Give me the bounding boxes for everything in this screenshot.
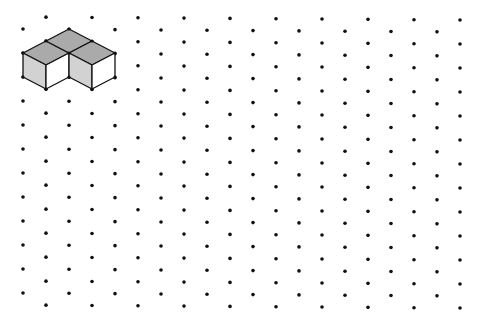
grid-dot [274, 233, 278, 237]
grid-dot [205, 76, 209, 80]
grid-dot [366, 42, 370, 46]
grid-dot [366, 186, 370, 190]
grid-dot [274, 137, 278, 141]
grid-dot [389, 246, 393, 250]
grid-dot [205, 52, 209, 56]
grid-dot [90, 208, 94, 212]
grid-dot [412, 18, 416, 22]
vertex-dot [44, 39, 47, 42]
grid-dot [389, 54, 393, 58]
grid-dot [251, 269, 255, 273]
grid-dot [412, 42, 416, 46]
grid-dot [90, 112, 94, 116]
grid-dot [228, 17, 232, 21]
grid-dot [159, 100, 163, 104]
grid-dot [251, 101, 255, 105]
grid-dot [113, 124, 117, 128]
grid-dot [228, 281, 232, 285]
grid-dot [21, 99, 25, 103]
isometric-dot-paper [0, 0, 491, 320]
grid-dot [159, 148, 163, 152]
grid-dot [159, 244, 163, 248]
grid-dot [136, 88, 140, 92]
grid-dot [435, 150, 439, 154]
grid-dot [343, 269, 347, 273]
grid-dot [182, 16, 186, 20]
grid-dot [67, 172, 71, 176]
grid-dot [389, 270, 393, 274]
grid-dot [113, 28, 117, 32]
grid-dot [320, 233, 324, 237]
grid-dot [67, 124, 71, 128]
grid-dot [251, 149, 255, 153]
grid-dot [205, 196, 209, 200]
grid-dot [136, 40, 140, 44]
grid-dot [21, 171, 25, 175]
grid-dot [21, 27, 25, 31]
grid-dot [67, 220, 71, 224]
grid-dot [297, 101, 301, 105]
grid-dot [320, 113, 324, 117]
grid-dot [412, 114, 416, 118]
grid-dot [274, 209, 278, 213]
grid-dot [274, 89, 278, 93]
grid-dot [136, 16, 140, 20]
grid-dot [320, 41, 324, 45]
grid-dot [458, 42, 462, 46]
grid-dot [205, 28, 209, 32]
grid-dot [412, 90, 416, 94]
grid-dot [366, 114, 370, 118]
grid-dot [228, 305, 232, 309]
grid-dot [343, 245, 347, 249]
grid-dot [274, 185, 278, 189]
grid-dot [205, 244, 209, 248]
grid-dot [205, 100, 209, 104]
grid-dot [44, 255, 48, 259]
grid-dot [389, 78, 393, 82]
grid-dot [205, 268, 209, 272]
grid-dot [274, 305, 278, 309]
grid-dot [136, 64, 140, 68]
grid-dot [113, 292, 117, 296]
grid-dot [389, 150, 393, 154]
grid-dot [297, 221, 301, 225]
grid-dot [67, 268, 71, 272]
grid-dot [159, 124, 163, 128]
grid-dot [136, 256, 140, 260]
grid-dot [182, 184, 186, 188]
grid-dot [435, 294, 439, 298]
vertex-dot [90, 39, 93, 42]
grid-dot [343, 77, 347, 81]
grid-dot [297, 53, 301, 57]
grid-dot [67, 148, 71, 152]
grid-dot [274, 41, 278, 45]
grid-dot [343, 53, 347, 57]
grid-dot [274, 65, 278, 69]
grid-dot [44, 231, 48, 235]
grid-dot [90, 160, 94, 164]
grid-dot [297, 125, 301, 129]
diagram-svg [0, 0, 491, 320]
grid-dot [182, 40, 186, 44]
grid-dot [136, 112, 140, 116]
grid-dot [458, 138, 462, 142]
vertex-dot [67, 51, 70, 54]
vertex-dot [21, 51, 24, 54]
grid-dot [44, 111, 48, 115]
grid-dot [274, 17, 278, 21]
grid-dot [366, 210, 370, 214]
grid-dot [320, 281, 324, 285]
grid-dot [136, 184, 140, 188]
grid-dot [90, 16, 94, 20]
grid-dot [159, 28, 163, 32]
grid-dot [389, 198, 393, 202]
grid-dot [320, 209, 324, 213]
grid-dot [366, 162, 370, 166]
grid-dot [297, 29, 301, 33]
grid-dot [412, 162, 416, 166]
grid-dot [297, 245, 301, 249]
grid-dot [113, 220, 117, 224]
grid-dot [113, 244, 117, 248]
grid-dot [389, 174, 393, 178]
grid-dot [297, 149, 301, 153]
